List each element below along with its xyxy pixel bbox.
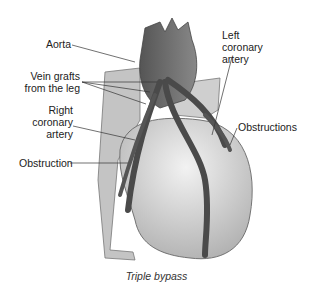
label-obstruction: Obstruction [19,157,73,169]
label-obstructions: Obstructions [238,121,297,133]
label-vein-grafts-1: Vein grafts [30,70,80,82]
figure-caption: Triple bypass [0,270,313,282]
label-right-coronary-2: coronary [32,116,73,128]
label-right-coronary-1: Right [48,104,73,116]
label-vein-grafts-2: from the leg [25,82,80,94]
label-right-coronary-3: artery [46,128,73,140]
label-left-coronary-1: Left [222,29,240,41]
label-aorta: Aorta [46,38,71,50]
label-left-coronary-2: coronary [222,41,263,53]
label-left-coronary-3: artery [222,53,249,65]
